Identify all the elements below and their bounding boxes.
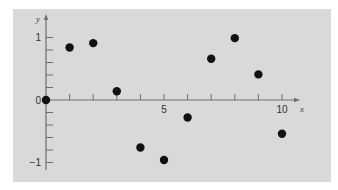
data-point xyxy=(65,43,73,51)
data-point xyxy=(113,87,121,95)
y-tick-label: 1 xyxy=(35,32,41,43)
data-point xyxy=(231,34,239,42)
y-tick-label: 0 xyxy=(35,95,41,106)
data-point xyxy=(183,113,191,121)
data-point xyxy=(254,70,262,78)
data-point xyxy=(207,55,215,63)
x-tick-label: 10 xyxy=(276,104,288,115)
x-axis-label: x xyxy=(299,104,304,114)
scatter-chart: 51010−1 x y xyxy=(0,0,338,190)
data-point xyxy=(42,96,50,104)
data-point xyxy=(89,39,97,47)
data-point xyxy=(136,143,144,151)
plot-background xyxy=(13,9,331,182)
data-point xyxy=(278,130,286,138)
y-tick-label: −1 xyxy=(30,157,42,168)
y-axis-label: y xyxy=(35,14,40,24)
data-point xyxy=(160,156,168,164)
x-tick-label: 5 xyxy=(161,104,167,115)
